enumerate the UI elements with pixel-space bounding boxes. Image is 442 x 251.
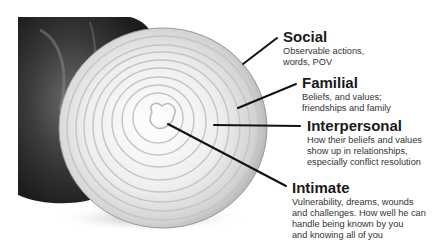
layer-description: Vulnerability, dreams, wounds and challe…: [292, 197, 426, 241]
layer-title: Interpersonal: [307, 118, 422, 133]
layer-description: Beliefs, and values; friendships and fam…: [302, 92, 391, 114]
description-line: How their beliefs and values: [307, 135, 422, 146]
layer-label-familial: Familial Beliefs, and values; friendship…: [302, 75, 391, 114]
layer-description: How their beliefs and values show up in …: [307, 135, 422, 168]
onion-layers-diagram: Social Observable actions, words, POV Fa…: [0, 0, 442, 251]
description-line: Vulnerability, dreams, wounds: [292, 197, 426, 208]
leader-line-interpersonal: [214, 125, 300, 126]
layer-title: Intimate: [292, 180, 426, 195]
layer-title: Familial: [302, 75, 391, 90]
description-line: friendships and family: [302, 103, 391, 114]
onion-cross-section: [59, 28, 267, 228]
description-line: Observable actions,: [283, 46, 364, 57]
layer-title: Social: [283, 29, 364, 44]
description-line: show up in relationships,: [307, 146, 422, 157]
layer-label-intimate: Intimate Vulnerability, dreams, wounds a…: [292, 180, 426, 241]
description-line: especially conflict resolution: [307, 157, 422, 168]
layer-label-interpersonal: Interpersonal How their beliefs and valu…: [307, 118, 422, 168]
description-line: and knowing all of you: [292, 230, 426, 241]
description-line: words, POV: [283, 57, 364, 68]
description-line: and challenges. How well he can: [292, 208, 426, 219]
leader-line-social: [243, 38, 277, 64]
layer-description: Observable actions, words, POV: [283, 46, 364, 68]
description-line: handle being known by you: [292, 219, 426, 230]
description-line: Beliefs, and values;: [302, 92, 391, 103]
layer-label-social: Social Observable actions, words, POV: [283, 29, 364, 68]
